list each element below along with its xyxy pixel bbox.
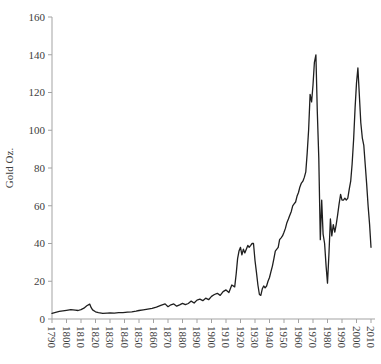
x-tick-label: 1830 bbox=[104, 326, 116, 349]
y-tick-label: 40 bbox=[34, 237, 46, 249]
x-tick-label: 1970 bbox=[307, 326, 319, 349]
series-line bbox=[52, 55, 371, 314]
y-tick-label: 160 bbox=[29, 11, 46, 23]
y-tick-label: 120 bbox=[29, 86, 46, 98]
x-tick-label: 1860 bbox=[148, 326, 160, 349]
x-axis-ticks: 1790180018101820183018401850186018701880… bbox=[46, 319, 377, 349]
x-tick-label: 1890 bbox=[191, 326, 203, 349]
x-tick-label: 1820 bbox=[90, 326, 102, 349]
x-tick-label: 1950 bbox=[278, 326, 290, 349]
x-tick-label: 1960 bbox=[293, 326, 305, 349]
x-tick-label: 1900 bbox=[206, 326, 218, 349]
x-tick-label: 2000 bbox=[351, 326, 363, 349]
y-tick-label: 100 bbox=[29, 124, 46, 136]
data-series bbox=[52, 55, 371, 314]
x-tick-label: 1790 bbox=[46, 326, 58, 349]
gold-oz-line-chart: 020406080100120140160 179018001810182018… bbox=[0, 0, 381, 364]
chart-canvas: 020406080100120140160 179018001810182018… bbox=[0, 0, 381, 364]
x-tick-label: 1940 bbox=[264, 326, 276, 349]
x-tick-label: 1880 bbox=[177, 326, 189, 349]
x-tick-label: 1810 bbox=[75, 326, 87, 349]
x-tick-label: 1920 bbox=[235, 326, 247, 349]
y-axis-title: Gold Oz. bbox=[3, 148, 15, 189]
x-tick-label: 1910 bbox=[220, 326, 232, 349]
y-tick-label: 60 bbox=[34, 200, 46, 212]
x-tick-label: 1870 bbox=[162, 326, 174, 349]
y-tick-label: 20 bbox=[34, 275, 46, 287]
x-tick-label: 2010 bbox=[365, 326, 377, 349]
y-tick-label: 0 bbox=[40, 313, 46, 325]
x-tick-label: 1980 bbox=[322, 326, 334, 349]
x-tick-label: 1930 bbox=[249, 326, 261, 349]
x-tick-label: 1990 bbox=[336, 326, 348, 349]
x-tick-label: 1840 bbox=[119, 326, 131, 349]
x-tick-label: 1800 bbox=[61, 326, 73, 349]
y-tick-label: 80 bbox=[34, 162, 46, 174]
x-tick-label: 1850 bbox=[133, 326, 145, 349]
y-tick-label: 140 bbox=[29, 49, 46, 61]
y-axis-ticks: 020406080100120140160 bbox=[29, 11, 53, 325]
